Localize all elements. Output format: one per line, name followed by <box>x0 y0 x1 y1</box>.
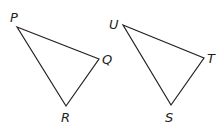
triangles-diagram: P Q R U T S <box>0 0 222 135</box>
triangle-pqr <box>17 27 99 106</box>
vertex-label-r: R <box>61 110 70 125</box>
triangle-uts <box>123 25 204 105</box>
vertex-label-s: S <box>165 110 173 125</box>
vertex-label-q: Q <box>102 52 112 67</box>
vertex-label-p: P <box>10 10 18 25</box>
vertex-label-u: U <box>109 17 119 32</box>
vertex-label-t: T <box>207 51 216 66</box>
